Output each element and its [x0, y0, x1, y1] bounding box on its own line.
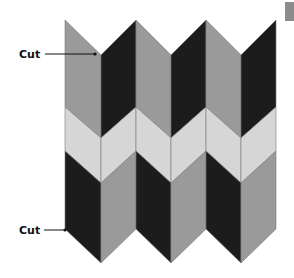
corner-tab: [285, 2, 294, 21]
zigzag-panels: [65, 20, 276, 263]
top-cut-label: Cut: [19, 49, 40, 60]
bottom-cut-arrow-head: [63, 228, 66, 231]
top-cut-arrow-head: [93, 52, 96, 55]
bottom-cut-label: Cut: [19, 225, 40, 236]
zigzag-quilt-diagram: [0, 0, 294, 278]
